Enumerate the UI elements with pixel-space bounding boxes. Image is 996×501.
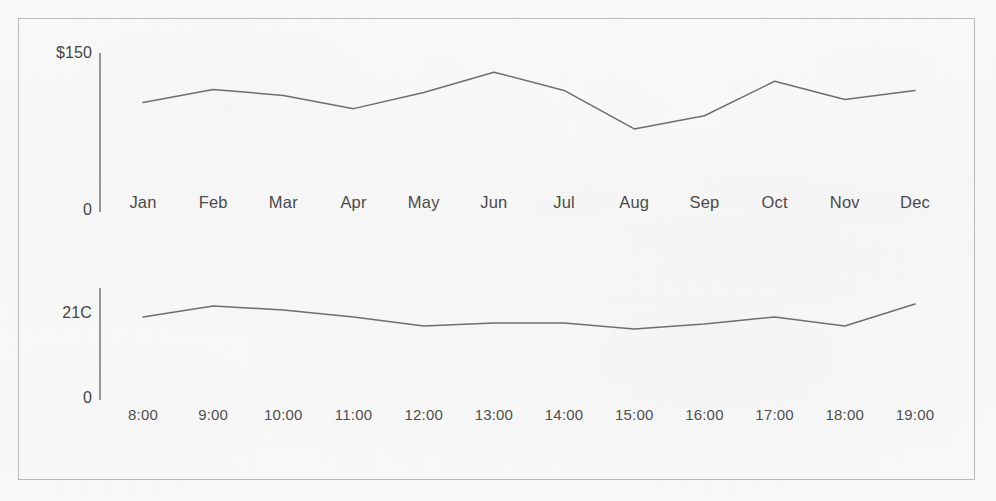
x-tick-label: 16:00	[664, 406, 744, 423]
monthly-price-chart: $150 0 JanFebMarAprMayJunJulAugSepOctNov…	[0, 0, 996, 240]
x-tick-label: 11:00	[314, 406, 394, 423]
x-tick-label: Feb	[173, 193, 253, 212]
temperature-y-axis-bottom-label: 0	[40, 389, 92, 407]
x-tick-label: Nov	[805, 193, 885, 212]
x-tick-label: Jun	[454, 193, 534, 212]
x-tick-label: 19:00	[875, 406, 955, 423]
x-tick-label: 14:00	[524, 406, 604, 423]
x-tick-label: 12:00	[384, 406, 464, 423]
x-tick-label: 13:00	[454, 406, 534, 423]
hourly-temperature-chart: 21C 0 8:009:0010:0011:0012:0013:0014:001…	[0, 240, 996, 501]
x-tick-label: 18:00	[805, 406, 885, 423]
x-tick-label: 10:00	[243, 406, 323, 423]
price-y-axis-bottom-label: 0	[40, 201, 92, 219]
x-tick-label: May	[384, 193, 464, 212]
x-tick-label: Aug	[594, 193, 674, 212]
x-tick-label: Mar	[243, 193, 323, 212]
x-tick-label: Jan	[103, 193, 183, 212]
temperature-y-axis-top-label: 21C	[40, 304, 92, 322]
x-tick-label: Apr	[314, 193, 394, 212]
price-y-axis-top-label: $150	[40, 44, 92, 62]
x-tick-label: Sep	[664, 193, 744, 212]
x-tick-label: Oct	[735, 193, 815, 212]
x-tick-label: 8:00	[103, 406, 183, 423]
x-tick-label: Jul	[524, 193, 604, 212]
x-tick-label: 9:00	[173, 406, 253, 423]
temperature-data-line	[143, 304, 915, 329]
x-tick-label: 17:00	[735, 406, 815, 423]
x-tick-label: Dec	[875, 193, 955, 212]
price-data-line	[143, 72, 915, 129]
x-tick-label: 15:00	[594, 406, 674, 423]
temperature-plot-svg	[0, 240, 996, 501]
